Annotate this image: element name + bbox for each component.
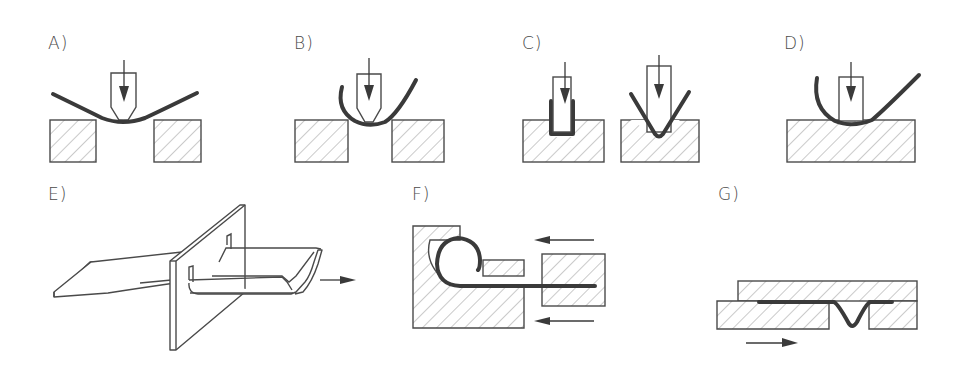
forming-plate	[170, 205, 245, 350]
panel-g: G)	[717, 184, 917, 347]
u-punch	[553, 77, 571, 132]
panel-c-label: C)	[522, 33, 543, 53]
panel-f: F)	[412, 184, 605, 328]
pusher-block	[542, 254, 605, 306]
right-die-block	[392, 120, 444, 162]
panel-b: B)	[294, 33, 444, 162]
bending-processes-diagram: A) B) C) D)	[0, 0, 968, 375]
left-die-block	[50, 120, 96, 162]
left-die-block	[295, 120, 348, 162]
panel-e-label: E)	[48, 184, 67, 204]
right-die-block	[154, 120, 201, 162]
panel-b-label: B)	[294, 33, 314, 53]
panel-f-label: F)	[412, 184, 430, 204]
panel-d: D)	[784, 33, 919, 162]
panel-a-label: A)	[48, 33, 68, 53]
lower-fixed-plate	[869, 301, 917, 329]
panel-c: C)	[522, 33, 699, 162]
die-block	[787, 120, 915, 162]
sheet-metal	[816, 75, 919, 124]
panel-d-label: D)	[784, 33, 806, 53]
panel-a: A)	[48, 33, 201, 162]
panel-g-label: G)	[718, 184, 740, 204]
incoming-flat-sheet	[54, 252, 182, 297]
upper-slide-plate	[738, 281, 917, 301]
panel-e: E)	[48, 184, 356, 350]
holder-block	[483, 260, 524, 276]
lower-slide-plate	[717, 301, 829, 329]
